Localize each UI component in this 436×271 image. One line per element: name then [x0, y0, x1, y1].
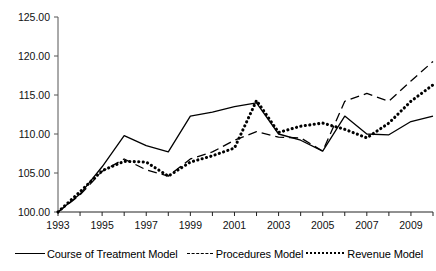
plot-area: 100.00105.00110.00115.00120.00125.00 199…: [0, 0, 436, 232]
legend-label-course-of-treatment-model: Course of Treatment Model: [47, 248, 178, 260]
legend-swatch-solid-icon: [13, 248, 47, 259]
x-tick-label: 1995: [90, 219, 114, 231]
x-tick-label: 1993: [46, 219, 70, 231]
series-line: [58, 85, 433, 212]
y-tick-label: 110.00: [19, 128, 50, 140]
chart-legend: Course of Treatment Model Procedures Mod…: [0, 236, 436, 271]
y-tick-label: 120.00: [18, 50, 50, 62]
line-chart: 100.00105.00110.00115.00120.00125.00 199…: [0, 0, 436, 271]
x-tick-label: 2005: [311, 219, 335, 231]
legend-item-course-of-treatment-model: Course of Treatment Model: [13, 248, 178, 260]
x-tick-label: 2001: [223, 219, 247, 231]
chart-svg: 100.00105.00110.00115.00120.00125.00 199…: [0, 0, 436, 232]
legend-label-revenue-model: Revenue Model: [347, 248, 423, 260]
legend-swatch-dashed-icon: [184, 248, 216, 259]
series-line: [58, 61, 433, 212]
series-line: [58, 103, 433, 212]
y-tick-label: 115.00: [19, 89, 50, 101]
y-tick-label: 125.00: [18, 11, 50, 23]
legend-item-revenue-model: Revenue Model: [303, 248, 423, 260]
x-tick-label: 2007: [355, 219, 379, 231]
y-tick-label: 105.00: [18, 167, 50, 179]
x-tick-label: 1997: [135, 219, 159, 231]
legend-item-procedures-model: Procedures Model: [184, 248, 304, 260]
x-axis: 199319951997199920012003200520072009: [46, 212, 433, 231]
y-axis: 100.00105.00110.00115.00120.00125.00: [18, 11, 58, 218]
data-series-group: [58, 61, 433, 212]
x-tick-label: 1999: [179, 219, 203, 231]
legend-swatch-dotted-icon: [303, 248, 347, 259]
legend-label-procedures-model: Procedures Model: [216, 248, 304, 260]
x-tick-label: 2003: [267, 219, 291, 231]
x-tick-label: 2009: [399, 219, 423, 231]
y-tick-label: 100.00: [18, 206, 50, 218]
